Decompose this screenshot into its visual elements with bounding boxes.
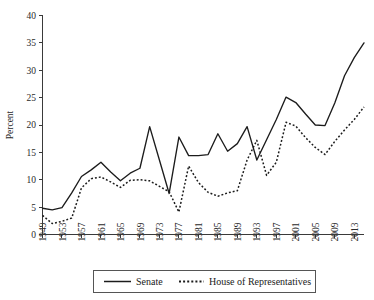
chart-legend: Senate House of Representatives bbox=[94, 271, 316, 293]
y-tick-label: 35 bbox=[27, 38, 37, 48]
x-tick-label: 1997 bbox=[272, 222, 282, 241]
x-tick-label: 2013 bbox=[350, 222, 360, 241]
legend-label-senate: Senate bbox=[136, 276, 163, 287]
x-tick-label: 1985 bbox=[213, 222, 223, 241]
y-tick-label: 20 bbox=[27, 120, 37, 130]
x-tick-label: 1949 bbox=[38, 222, 48, 241]
y-tick-label: 0 bbox=[31, 230, 36, 240]
percent-line-chart: 0510152025303540 19491953195719611965196… bbox=[0, 0, 374, 300]
x-tick-label: 2005 bbox=[311, 222, 321, 241]
x-tick-label: 1953 bbox=[58, 222, 68, 241]
x-axis-ticks: 1949195319571961196519691973197719811985… bbox=[38, 222, 360, 241]
y-axis-ticks: 0510152025303540 bbox=[27, 11, 43, 240]
y-tick-label: 25 bbox=[27, 93, 37, 103]
x-tick-label: 1977 bbox=[174, 222, 184, 241]
x-tick-label: 1981 bbox=[194, 222, 204, 241]
x-tick-label: 1957 bbox=[77, 222, 87, 241]
x-tick-label: 1969 bbox=[136, 222, 146, 241]
series-line-senate bbox=[43, 43, 365, 210]
x-tick-label: 2001 bbox=[291, 222, 301, 241]
chart-figure: 0510152025303540 19491953195719611965196… bbox=[0, 0, 374, 300]
y-tick-label: 30 bbox=[27, 66, 37, 76]
y-tick-label: 5 bbox=[31, 203, 36, 213]
y-tick-label: 15 bbox=[27, 148, 37, 158]
y-axis-title: Percent bbox=[5, 110, 15, 139]
y-tick-label: 10 bbox=[27, 175, 37, 185]
x-tick-label: 1973 bbox=[155, 222, 165, 241]
y-tick-label: 40 bbox=[27, 11, 37, 21]
x-tick-label: 1961 bbox=[97, 222, 107, 241]
x-tick-label: 1989 bbox=[233, 222, 243, 241]
x-tick-label: 2009 bbox=[330, 222, 340, 241]
x-tick-label: 1965 bbox=[116, 222, 126, 241]
x-tick-label: 1993 bbox=[252, 222, 262, 241]
legend-label-house-of-representatives: House of Representatives bbox=[209, 276, 311, 287]
